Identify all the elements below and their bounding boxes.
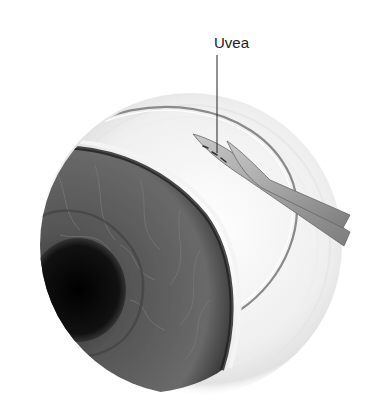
pupil — [30, 238, 126, 342]
eye-illustration — [0, 0, 371, 406]
uvea-label: Uvea — [214, 34, 249, 51]
